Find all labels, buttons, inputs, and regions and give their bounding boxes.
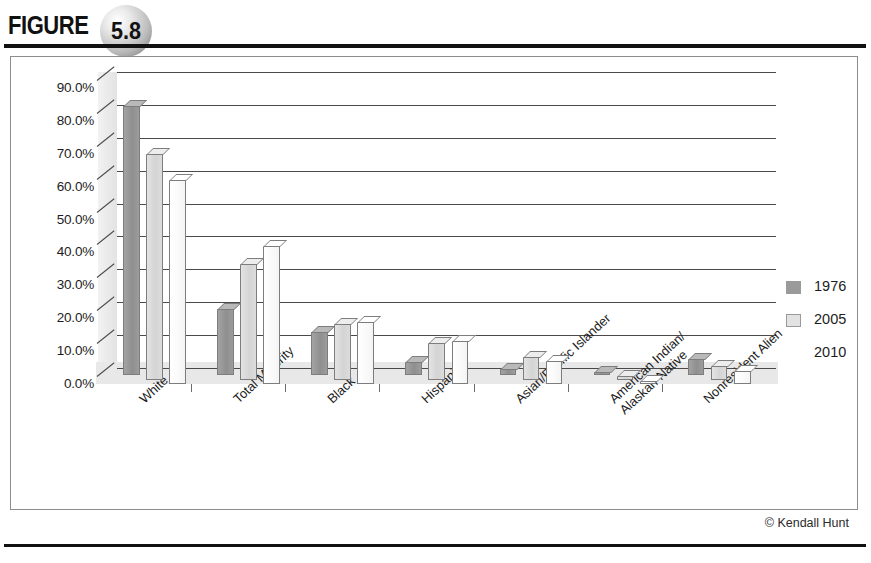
figure-number: 5.8	[103, 5, 150, 57]
copyright-credit: © Kendall Hunt	[765, 516, 849, 530]
chart-frame	[10, 56, 858, 510]
header-divider	[4, 44, 866, 48]
footer-divider	[4, 544, 866, 547]
figure-label: FIGURE	[8, 11, 88, 40]
figure-header: FIGURE 5.8	[0, 4, 871, 50]
